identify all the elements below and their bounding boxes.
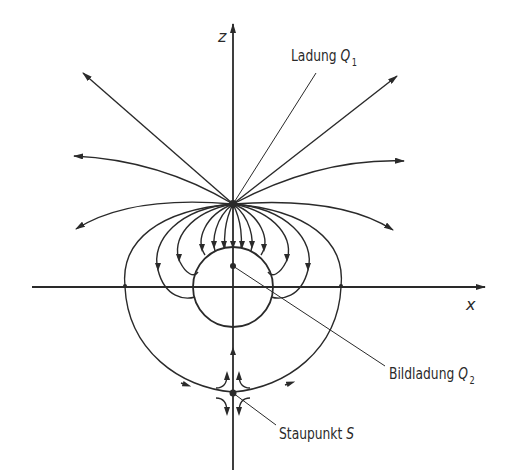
field-line xyxy=(83,73,233,204)
field-line-outer-loop xyxy=(233,204,341,392)
label-charge-q1: Ladung Q1 xyxy=(291,47,357,68)
x-axis-label: x xyxy=(466,295,475,314)
image-charge-q2-dot xyxy=(230,263,236,269)
field-line xyxy=(233,161,404,204)
stagnation-point-dot xyxy=(230,390,237,397)
label-subscript: 1 xyxy=(352,57,357,68)
diagram-canvas xyxy=(0,0,509,473)
label-text: Bildladung xyxy=(389,365,454,383)
field-line-outer-loop xyxy=(125,204,233,392)
charge-q1-dot xyxy=(229,200,237,208)
field-line xyxy=(76,202,233,229)
label-subscript: 2 xyxy=(470,375,475,386)
loop-arrow xyxy=(181,383,187,385)
z-axis-label: z xyxy=(218,27,226,46)
label-text: Staupunkt xyxy=(279,425,342,443)
field-line xyxy=(74,156,233,204)
leader-line-q2 xyxy=(233,266,385,366)
label-symbol: Q xyxy=(341,47,351,65)
label-image-charge-q2: Bildladung Q2 xyxy=(389,365,475,386)
label-symbol: Q xyxy=(458,365,468,383)
field-line-to-sphere xyxy=(157,204,233,298)
label-stagnation-point: Staupunkt S xyxy=(279,425,354,443)
loop-arrow xyxy=(285,383,291,385)
field-line xyxy=(233,76,397,204)
field-line-diagram: z x Ladung Q1 Bildladung Q2 Staupunkt S xyxy=(0,0,509,473)
label-text: Ladung xyxy=(291,47,337,65)
label-symbol: S xyxy=(346,425,354,443)
field-line-to-sphere xyxy=(233,204,309,298)
